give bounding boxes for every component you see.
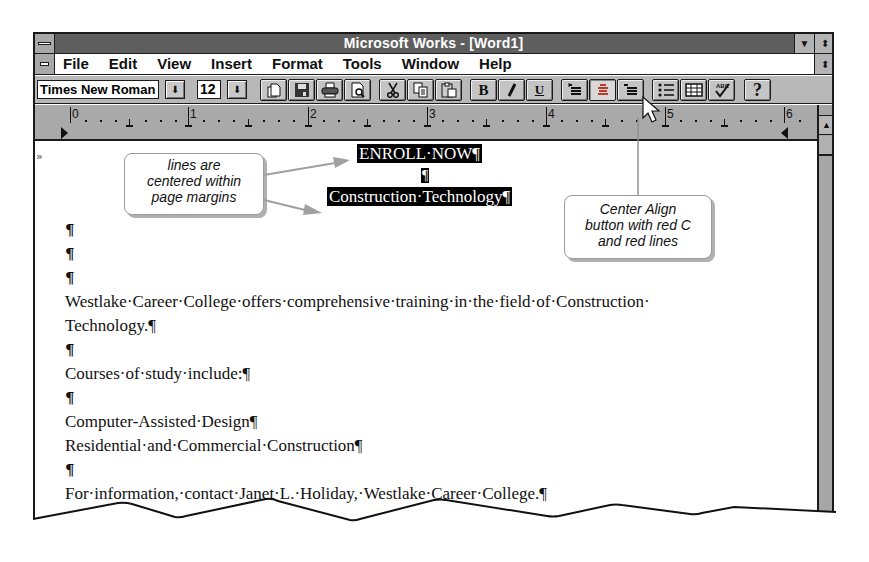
clipboard-icon bbox=[441, 82, 457, 98]
tab-stop[interactable] bbox=[427, 119, 428, 125]
italic-icon bbox=[506, 83, 518, 97]
doc-line: Courses·of·study·include:¶ bbox=[65, 363, 250, 385]
tab-stop[interactable] bbox=[129, 119, 130, 125]
new-document-button[interactable] bbox=[260, 79, 287, 101]
window-title: Microsoft Works - [Word1] bbox=[35, 35, 832, 51]
copy-icon bbox=[413, 82, 429, 98]
center-align-button[interactable] bbox=[589, 79, 616, 101]
doc-line: For·information,·contact·Janet·L.·Holida… bbox=[65, 483, 547, 505]
font-size-field[interactable]: 12 bbox=[197, 80, 221, 99]
tab-stop[interactable] bbox=[665, 119, 666, 125]
dropdown-arrow-icon: ⬇ bbox=[233, 84, 241, 95]
bullets-button[interactable] bbox=[652, 79, 679, 101]
font-name-dropdown[interactable]: ⬇ bbox=[165, 80, 185, 99]
document-control-icon bbox=[40, 62, 49, 66]
tab-stop[interactable] bbox=[546, 119, 547, 125]
tab-stop[interactable] bbox=[367, 119, 368, 125]
underline-icon: U bbox=[535, 82, 544, 98]
menu-file[interactable]: File bbox=[63, 55, 89, 73]
left-align-button[interactable] bbox=[561, 79, 588, 101]
floppy-disk-icon bbox=[294, 82, 310, 98]
scroll-up-button[interactable]: ▲ bbox=[819, 115, 834, 135]
dropdown-arrow-icon: ⬇ bbox=[171, 84, 179, 95]
callout-centered-lines: lines are centered within page margins bbox=[124, 153, 264, 215]
right-align-icon bbox=[623, 83, 639, 97]
bold-button[interactable]: B bbox=[470, 79, 497, 101]
tab-stop[interactable] bbox=[188, 119, 189, 125]
left-indent-marker[interactable] bbox=[61, 127, 68, 139]
works-window: Microsoft Works - [Word1] ▼ ⬍ File Edit … bbox=[33, 32, 834, 544]
cut-button[interactable] bbox=[379, 79, 406, 101]
down-triangle-icon: ▼ bbox=[800, 38, 810, 49]
tab-stop[interactable] bbox=[248, 119, 249, 125]
bold-icon: B bbox=[478, 82, 488, 99]
question-mark-icon: ? bbox=[753, 80, 762, 101]
doc-line: ¶ bbox=[65, 387, 75, 409]
print-preview-icon bbox=[350, 82, 366, 98]
menu-view[interactable]: View bbox=[157, 55, 191, 73]
printer-icon bbox=[321, 82, 339, 98]
doc-line: ¶ bbox=[65, 459, 75, 481]
doc-line: ¶ bbox=[65, 219, 75, 241]
font-size-dropdown[interactable]: ⬇ bbox=[227, 80, 247, 99]
doc-line: ¶ bbox=[65, 339, 75, 361]
doc-line: Westlake·Career·College·offers·comprehen… bbox=[65, 291, 650, 313]
italic-button[interactable] bbox=[498, 79, 525, 101]
doc-line: ¶ bbox=[65, 267, 75, 289]
heading-blank-paragraph[interactable]: ¶ bbox=[421, 164, 429, 187]
document-control-menu[interactable] bbox=[35, 54, 55, 74]
doc-line: Residential·and·Commercial·Construction¶ bbox=[65, 435, 363, 457]
toolbar: Times New Roman ⬇ 12 ⬇ B bbox=[35, 76, 832, 104]
doc-line: Technology.¶ bbox=[65, 315, 156, 337]
print-button[interactable] bbox=[316, 79, 343, 101]
menu-tools[interactable]: Tools bbox=[343, 55, 382, 73]
restore-arrows-icon: ⬍ bbox=[821, 38, 829, 49]
ruler-scale: 0 1 2 3 4 5 6 bbox=[60, 105, 817, 139]
print-preview-button[interactable] bbox=[344, 79, 371, 101]
font-name-field[interactable]: Times New Roman bbox=[37, 80, 159, 99]
paste-button[interactable] bbox=[435, 79, 462, 101]
menu-bar: File Edit View Insert Format Tools Windo… bbox=[35, 54, 832, 75]
scissors-icon bbox=[386, 82, 400, 98]
restore-button[interactable]: ⬍ bbox=[814, 34, 834, 53]
right-indent-marker[interactable] bbox=[781, 127, 788, 139]
save-button[interactable] bbox=[288, 79, 315, 101]
menu-help[interactable]: Help bbox=[479, 55, 512, 73]
tab-stop[interactable] bbox=[308, 119, 309, 125]
underline-button[interactable]: U bbox=[526, 79, 553, 101]
menu-edit[interactable]: Edit bbox=[109, 55, 137, 73]
spelling-check-button[interactable]: ABC bbox=[708, 79, 735, 101]
margin-marker: » bbox=[36, 150, 43, 163]
tab-stop[interactable] bbox=[605, 119, 606, 125]
copy-button[interactable] bbox=[407, 79, 434, 101]
menu-window[interactable]: Window bbox=[402, 55, 459, 73]
doc-line: ¶ bbox=[65, 243, 75, 265]
heading-construction-technology[interactable]: Construction·Technology¶ bbox=[327, 186, 512, 208]
vertical-scrollbar[interactable]: ▲ bbox=[817, 105, 834, 544]
right-align-button[interactable] bbox=[617, 79, 644, 101]
minimize-button[interactable]: ▼ bbox=[794, 34, 814, 53]
insert-table-button[interactable] bbox=[680, 79, 707, 101]
ruler[interactable]: 0 1 2 3 4 5 6 bbox=[35, 105, 817, 141]
center-align-icon bbox=[595, 83, 611, 97]
spell-check-icon: ABC bbox=[713, 82, 731, 98]
document-restore-button[interactable]: ⬍ bbox=[814, 54, 834, 74]
bullet-list-icon bbox=[657, 83, 675, 97]
table-icon bbox=[685, 83, 703, 97]
tab-stop[interactable] bbox=[486, 119, 487, 125]
menu-insert[interactable]: Insert bbox=[211, 55, 252, 73]
heading-enroll-now[interactable]: ENROLL·NOW¶ bbox=[357, 143, 482, 165]
new-document-icon bbox=[266, 82, 282, 98]
restore-arrows-icon: ⬍ bbox=[821, 59, 829, 70]
title-bar: Microsoft Works - [Word1] ▼ ⬍ bbox=[35, 34, 832, 54]
up-arrow-icon: ▲ bbox=[822, 120, 831, 130]
help-button[interactable]: ? bbox=[744, 79, 771, 101]
callout-center-align: Center Align button with red C and red l… bbox=[564, 195, 712, 259]
doc-line: Computer-Assisted·Design¶ bbox=[65, 411, 257, 433]
menu-format[interactable]: Format bbox=[272, 55, 323, 73]
tab-stop[interactable] bbox=[724, 119, 725, 125]
left-align-icon bbox=[567, 83, 583, 97]
scroll-thumb[interactable] bbox=[819, 136, 834, 156]
